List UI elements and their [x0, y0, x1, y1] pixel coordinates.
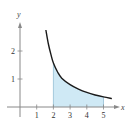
x-tick-label: 5 — [102, 111, 106, 120]
shaded-area — [53, 63, 103, 107]
x-tick-label: 3 — [68, 111, 72, 120]
y-axis-arrow-icon — [18, 22, 22, 28]
chart: x y 1234512 — [0, 0, 126, 126]
y-tick-label: 1 — [11, 75, 15, 84]
x-tick-label: 2 — [51, 111, 55, 120]
y-axis-label: y — [16, 10, 21, 19]
x-tick-label: 1 — [35, 111, 39, 120]
y-tick-label: 2 — [11, 47, 15, 56]
x-axis-arrow-icon — [114, 105, 120, 109]
x-tick-label: 4 — [85, 111, 89, 120]
shaded-region — [53, 63, 103, 107]
x-axis-label: x — [120, 103, 125, 112]
